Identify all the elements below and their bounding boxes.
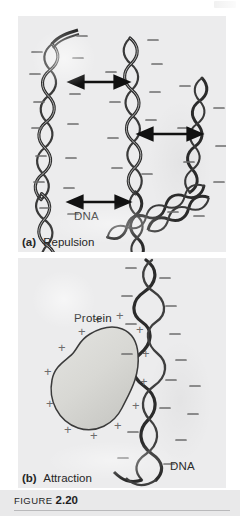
panel-b-caption-text: Attraction [43,472,92,484]
figure-number: FIGURE2.20 [14,494,78,506]
dna-label-panel-a: DNA [74,210,99,222]
dna-molecule-left-tail [52,30,79,48]
svg-text:+: + [142,346,150,361]
panel-a-caption-text: Repulsion [43,236,94,248]
dna-molecule-center [123,38,146,252]
svg-text:+: + [90,428,98,443]
figure-number-band: FIGURE2.20 [0,490,240,516]
dna-molecule-bottom [145,192,212,235]
svg-text:+: + [140,374,148,389]
svg-text:+: + [78,324,86,339]
figure-band-rule [14,510,230,511]
figure-number-value: 2.20 [56,494,78,506]
svg-text:+: + [64,422,72,437]
svg-text:+: + [58,340,66,355]
figure-2-20: DNA (a) Repulsion [0,0,240,516]
panel-a-caption: (a) Repulsion [22,236,94,248]
svg-text:+: + [132,398,140,413]
panel-b-caption-tag: (b) [22,472,37,484]
panel-a-repulsion-illustration: DNA [18,16,226,252]
svg-text:+: + [46,396,54,411]
figure-number-word: FIGURE [14,495,53,506]
svg-text:+: + [116,308,124,323]
svg-text:+: + [136,322,144,337]
svg-text:+: + [114,418,122,433]
panel-a-caption-tag: (a) [22,236,36,248]
scan-artifact [214,1,236,8]
protein-label: Protein [74,312,112,324]
panel-b-attraction-illustration: + + + + + + + + + + + + + [18,258,226,488]
svg-text:+: + [44,364,52,379]
panel-b-caption: (b) Attraction [22,472,92,484]
dna-label-panel-b: DNA [170,460,195,472]
